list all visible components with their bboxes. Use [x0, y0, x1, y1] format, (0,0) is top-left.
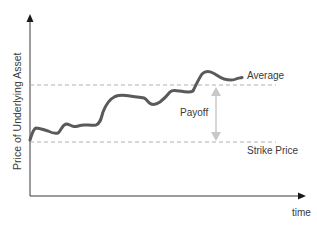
price-path-line [30, 72, 242, 140]
payoff-arrow-up-icon [211, 87, 221, 96]
payoff-diagram [0, 0, 317, 226]
average-label: Average [247, 71, 284, 81]
payoff-arrow-down-icon [211, 132, 221, 141]
y-axis-label: Price of Underlying Asset [12, 51, 23, 171]
payoff-label: Payoff [180, 108, 208, 118]
x-axis-label: time [292, 208, 311, 218]
strike-price-label: Strike Price [247, 146, 298, 156]
x-axis-arrow-icon [298, 193, 306, 200]
y-axis-arrow-icon [27, 14, 34, 22]
